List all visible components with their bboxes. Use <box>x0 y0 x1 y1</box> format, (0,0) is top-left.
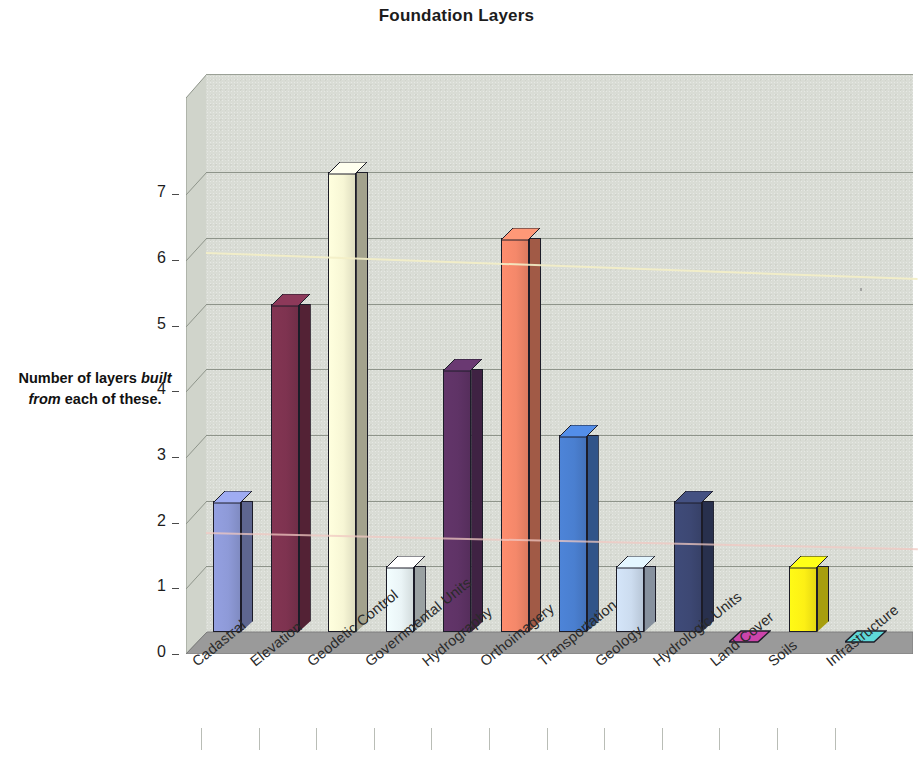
y-tick-label-2: 2 <box>140 512 166 530</box>
bar-side-face <box>587 435 599 632</box>
gridline-depth-2 <box>186 501 208 524</box>
gridline-depth-1 <box>186 566 208 589</box>
y-tick-label-6: 6 <box>140 249 166 267</box>
y-tick-label-7: 7 <box>140 183 166 201</box>
x-tick-mark-7 <box>604 728 605 750</box>
bar-elevation[interactable] <box>271 293 311 633</box>
bar-front-face <box>616 566 644 632</box>
y-tick-label-3: 3 <box>140 446 166 464</box>
bar-orthoimagery[interactable] <box>501 227 541 632</box>
bar-top-face <box>386 555 426 568</box>
bar-side-face <box>241 501 253 632</box>
bar-side-face <box>644 566 656 632</box>
bar-top-face <box>559 424 599 437</box>
x-tick-mark-0 <box>201 728 202 750</box>
x-tick-mark-8 <box>662 728 663 750</box>
bar-top-face <box>443 358 483 371</box>
bar-front-face <box>271 304 299 633</box>
gridline-depth-4 <box>186 369 208 392</box>
bar-front-face <box>789 566 817 632</box>
bar-front-face <box>674 501 702 632</box>
y-tick-label-4: 4 <box>140 380 166 398</box>
gridline-7 <box>206 172 913 173</box>
bar-top-face <box>271 293 311 306</box>
y-tick-mark-4 <box>172 391 179 392</box>
y-tick-mark-0 <box>172 654 179 655</box>
bar-top-face <box>328 161 368 174</box>
bar-side-face <box>471 369 483 632</box>
gridline-6 <box>206 238 913 239</box>
bar-transportation[interactable] <box>559 424 599 632</box>
bar-top-face <box>213 490 253 503</box>
y-axis-label-part-1: Number of layers <box>18 370 141 386</box>
chart-title: Foundation Layers <box>0 6 913 26</box>
bar-side-face <box>299 304 311 633</box>
y-tick-label-1: 1 <box>140 577 166 595</box>
bar-cadastral[interactable] <box>213 490 253 632</box>
x-tick-mark-6 <box>547 728 548 750</box>
x-tick-mark-5 <box>489 728 490 750</box>
scan-speck <box>860 288 862 291</box>
y-tick-mark-3 <box>172 457 179 458</box>
y-tick-label-0: 0 <box>140 643 166 661</box>
bar-top-face <box>616 555 656 568</box>
bar-front-face <box>213 501 241 632</box>
plot-area <box>186 74 913 654</box>
gridline-depth-6 <box>186 238 208 261</box>
bar-side-face <box>356 172 368 632</box>
y-tick-mark-6 <box>172 260 179 261</box>
bar-geology[interactable] <box>616 555 656 632</box>
x-tick-mark-4 <box>431 728 432 750</box>
bar-front-face <box>328 172 356 632</box>
bar-front-face <box>559 435 587 632</box>
bar-side-face <box>529 238 541 632</box>
x-tick-mark-9 <box>719 728 720 750</box>
y-tick-mark-1 <box>172 588 179 589</box>
gridline-4 <box>206 369 913 370</box>
bar-top-face <box>674 490 714 503</box>
bar-front-face <box>501 238 529 632</box>
gridline-depth-5 <box>186 304 208 327</box>
y-tick-mark-5 <box>172 326 179 327</box>
y-tick-mark-7 <box>172 194 179 195</box>
y-axis-label-part-4: from <box>29 391 61 407</box>
bar-top-face <box>501 227 541 240</box>
x-tick-mark-3 <box>374 728 375 750</box>
gridline-depth-3 <box>186 435 208 458</box>
bar-side-face <box>817 566 829 632</box>
x-tick-mark-1 <box>259 728 260 750</box>
bar-top-face <box>789 555 829 568</box>
x-tick-mark-11 <box>835 728 836 750</box>
bar-geodetic-control[interactable] <box>328 161 368 632</box>
y-tick-mark-2 <box>172 523 179 524</box>
gridline-depth-7 <box>186 172 208 195</box>
y-tick-label-5: 5 <box>140 315 166 333</box>
x-tick-mark-10 <box>777 728 778 750</box>
bar-soils[interactable] <box>789 555 829 632</box>
gridline-5 <box>206 304 913 305</box>
x-tick-mark-2 <box>316 728 317 750</box>
